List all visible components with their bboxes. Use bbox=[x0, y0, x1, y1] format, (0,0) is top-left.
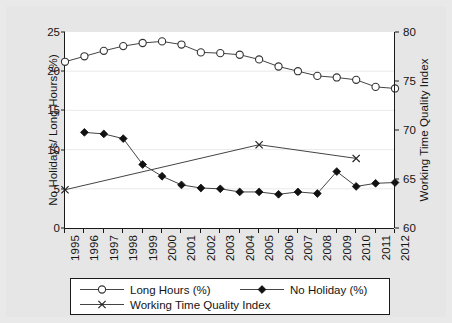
data-point-marker bbox=[139, 39, 146, 46]
data-point-marker bbox=[81, 128, 89, 136]
series-layer bbox=[65, 32, 395, 228]
x-axis-tick-label: 2007 bbox=[302, 235, 314, 261]
y-axis-left-tick-label: 5 bbox=[54, 183, 65, 195]
x-axis-tick-label: 2011 bbox=[380, 235, 392, 260]
y-axis-right-label-holder: Working Time Quality Index bbox=[418, 59, 430, 202]
legend-item[interactable]: No Holiday (%) bbox=[239, 283, 367, 296]
data-point-marker bbox=[100, 47, 107, 54]
x-axis-tickmark bbox=[297, 229, 298, 233]
data-point-marker bbox=[372, 179, 380, 187]
legend-item-label: Long Hours (%) bbox=[130, 284, 211, 296]
data-point-marker bbox=[236, 51, 243, 58]
data-point-marker bbox=[197, 49, 204, 56]
data-point-marker bbox=[100, 130, 108, 138]
legend-item[interactable]: Long Hours (%) bbox=[79, 283, 211, 296]
x-axis-tick-label: 1996 bbox=[88, 235, 100, 261]
data-point-marker bbox=[353, 76, 360, 83]
series-line bbox=[84, 132, 395, 194]
data-point-marker bbox=[197, 184, 205, 192]
y-axis-right-tick-label: 65 bbox=[395, 173, 416, 185]
x-axis-tickmark bbox=[83, 229, 84, 233]
x-axis-tick-label: 1999 bbox=[147, 235, 159, 261]
data-point-marker bbox=[275, 63, 282, 70]
y-axis-left-tick-label: 25 bbox=[47, 26, 65, 38]
series-2 bbox=[81, 128, 399, 198]
x-axis-tickmark bbox=[316, 229, 317, 233]
data-point-marker bbox=[256, 56, 263, 63]
x-axis-tickmark bbox=[336, 229, 337, 233]
data-point-marker bbox=[98, 286, 105, 293]
series-1 bbox=[61, 38, 398, 92]
x-axis-tick-label: 2012 bbox=[399, 235, 411, 261]
data-point-marker bbox=[120, 43, 127, 50]
x-axis-tick-label: 1997 bbox=[108, 235, 120, 261]
y-axis-right-tick-label: 60 bbox=[395, 222, 416, 234]
data-point-marker bbox=[294, 68, 301, 75]
x-axis-tickmark bbox=[239, 229, 240, 233]
x-axis-tick-label: 2008 bbox=[321, 235, 333, 261]
legend-item[interactable]: Working Time Quality Index bbox=[79, 298, 270, 311]
x-axis-tick-label: 2001 bbox=[185, 235, 197, 261]
x-axis-tickmark bbox=[103, 229, 104, 233]
x-axis-tick-label: 2005 bbox=[263, 235, 275, 261]
series-line bbox=[65, 145, 356, 190]
x-axis-tick-label: 2004 bbox=[244, 235, 256, 261]
y-axis-left-tick-label: 15 bbox=[47, 104, 65, 116]
x-axis-tickmark bbox=[394, 229, 395, 233]
x-axis-tick-label: 1995 bbox=[69, 235, 81, 261]
x-axis-line: 1995199619971998199920002001200220032004… bbox=[64, 228, 394, 229]
legend-item-label: Working Time Quality Index bbox=[130, 299, 270, 311]
y-axis-right-label: Working Time Quality Index bbox=[418, 59, 430, 202]
x-axis-tick-label: 2000 bbox=[166, 235, 178, 261]
data-point-marker bbox=[314, 72, 321, 79]
data-point-marker bbox=[333, 74, 340, 81]
data-point-marker bbox=[255, 188, 263, 196]
data-point-marker bbox=[216, 185, 224, 193]
data-point-marker bbox=[236, 188, 244, 196]
data-point-marker bbox=[372, 83, 379, 90]
x-axis-tickmark bbox=[219, 229, 220, 233]
series-3 bbox=[61, 141, 359, 193]
y-axis-right-tick-label: 70 bbox=[395, 124, 416, 136]
x-axis-tick-label: 1998 bbox=[127, 235, 139, 261]
x-axis-tickmark bbox=[258, 229, 259, 233]
x-axis-tickmark bbox=[122, 229, 123, 233]
legend-marker-cross-icon bbox=[79, 298, 125, 311]
y-axis-right-tick-label: 75 bbox=[395, 75, 416, 87]
x-axis-tickmark bbox=[200, 229, 201, 233]
data-point-marker bbox=[178, 41, 185, 48]
data-point-marker bbox=[139, 161, 147, 169]
x-axis-tickmark bbox=[180, 229, 181, 233]
x-axis-tickmark bbox=[278, 229, 279, 233]
data-point-marker bbox=[275, 190, 283, 198]
y-axis-right-tick-label: 80 bbox=[395, 26, 416, 38]
chart-legend: Long Hours (%)No Holiday (%)Working Time… bbox=[70, 278, 390, 315]
plot-area: No Holidays/ Long Hours (%) 0510152025 bbox=[64, 32, 395, 228]
legend-marker-open-circle-icon bbox=[79, 283, 125, 296]
y-axis-left-tick-label: 20 bbox=[47, 65, 65, 77]
x-axis-tickmark bbox=[375, 229, 376, 233]
x-axis-tickmark bbox=[142, 229, 143, 233]
data-point-marker bbox=[158, 172, 166, 180]
y-axis-left-tick-label: 10 bbox=[47, 144, 65, 156]
x-axis-tickmark bbox=[355, 229, 356, 233]
x-axis-tick-label: 2009 bbox=[341, 235, 353, 261]
data-point-marker bbox=[178, 181, 186, 189]
x-axis-tickmark bbox=[161, 229, 162, 233]
data-point-marker bbox=[258, 286, 266, 294]
x-axis-tick-label: 2006 bbox=[283, 235, 295, 261]
legend-item-label: No Holiday (%) bbox=[290, 284, 367, 296]
legend-marker-filled-diamond-icon bbox=[239, 283, 285, 296]
x-axis-tick-label: 2010 bbox=[360, 235, 372, 261]
data-point-marker bbox=[119, 135, 127, 143]
x-axis-tick-label: 2003 bbox=[224, 235, 236, 261]
data-point-marker bbox=[217, 50, 224, 57]
data-point-marker bbox=[294, 188, 302, 196]
x-axis-tickmark bbox=[64, 229, 65, 233]
figure-paper: No Holidays/ Long Hours (%) 0510152025 6… bbox=[6, 6, 446, 317]
chart-figure: No Holidays/ Long Hours (%) 0510152025 6… bbox=[0, 0, 452, 323]
x-axis-tick-label: 2002 bbox=[205, 235, 217, 261]
data-point-marker bbox=[158, 38, 165, 45]
data-point-marker bbox=[81, 53, 88, 60]
right-axis-line: 6065707580 bbox=[394, 32, 395, 228]
